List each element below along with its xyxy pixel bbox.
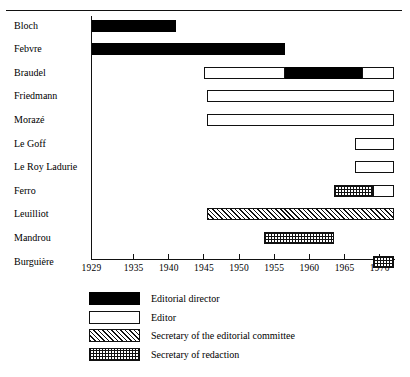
bar-segment[interactable]: [373, 185, 394, 197]
bar-segment[interactable]: [362, 67, 394, 79]
timeline-bar[interactable]: [92, 43, 285, 55]
timeline-bar[interactable]: [207, 208, 393, 220]
bar-segment[interactable]: [204, 67, 285, 79]
row-label: Friedmann: [14, 91, 57, 101]
bar-segment[interactable]: [207, 90, 393, 102]
x-tick-mark: [309, 254, 310, 260]
row-label: Febvre: [14, 44, 42, 54]
bar-segment[interactable]: [355, 138, 394, 150]
x-tick-mark: [203, 254, 204, 260]
legend-swatch: [89, 311, 140, 324]
timeline-bar[interactable]: [207, 114, 393, 126]
legend-swatch: [89, 348, 140, 361]
timeline-bar[interactable]: [355, 138, 394, 150]
timeline-bar[interactable]: [264, 232, 334, 244]
x-tick-mark: [344, 254, 345, 260]
row-label: Mandrou: [14, 233, 51, 243]
x-tick-mark: [91, 254, 92, 260]
timeline-bar[interactable]: [204, 67, 394, 79]
timeline-bar[interactable]: [355, 161, 394, 173]
legend-label: Secretary of redaction: [151, 349, 239, 360]
legend-swatch: [89, 329, 140, 342]
bar-segment[interactable]: [92, 43, 285, 55]
bar-segment[interactable]: [373, 256, 394, 268]
gantt-chart: 192919351940194519501955196019651970 Blo…: [0, 0, 410, 377]
x-tick-label: 1945: [184, 263, 224, 273]
row-label: Ferro: [14, 186, 36, 196]
timeline-bar[interactable]: [373, 256, 394, 268]
legend-label: Editorial director: [151, 293, 220, 304]
row-label: Le Roy Ladurie: [14, 162, 77, 172]
row-label: Leuilliot: [14, 209, 48, 219]
bar-segment[interactable]: [285, 67, 362, 79]
x-tick-label: 1940: [149, 263, 189, 273]
x-tick-label: 1965: [325, 263, 365, 273]
x-tick-label: 1935: [114, 263, 154, 273]
row-label: Le Goff: [14, 139, 46, 149]
horizontal-axis-line: [91, 259, 395, 260]
x-tick-label: 1929: [72, 263, 112, 273]
timeline-bar[interactable]: [207, 90, 393, 102]
timeline-bar[interactable]: [92, 20, 176, 32]
bar-segment[interactable]: [264, 232, 334, 244]
legend-label: Editor: [151, 312, 176, 323]
bar-segment[interactable]: [207, 114, 393, 126]
bar-segment[interactable]: [334, 185, 373, 197]
bar-segment[interactable]: [355, 161, 394, 173]
row-label: Burguière: [14, 257, 54, 267]
x-tick-mark: [239, 254, 240, 260]
timeline-bar[interactable]: [334, 185, 394, 197]
legend-swatch: [89, 292, 140, 305]
bar-segment[interactable]: [92, 20, 176, 32]
bar-segment[interactable]: [207, 208, 393, 220]
plot-area: 192919351940194519501955196019651970 Blo…: [0, 0, 410, 290]
x-tick-label: 1960: [289, 263, 329, 273]
x-tick-mark: [168, 254, 169, 260]
x-tick-mark: [274, 254, 275, 260]
row-label: Bloch: [14, 21, 38, 31]
x-tick-mark: [133, 254, 134, 260]
row-label: Braudel: [14, 68, 46, 78]
legend: Editorial directorEditorSecretary of the…: [0, 292, 410, 372]
x-tick-label: 1955: [254, 263, 294, 273]
legend-label: Secretary of the editorial committee: [151, 330, 295, 341]
x-tick-label: 1950: [219, 263, 259, 273]
row-label: Morazé: [14, 115, 45, 125]
